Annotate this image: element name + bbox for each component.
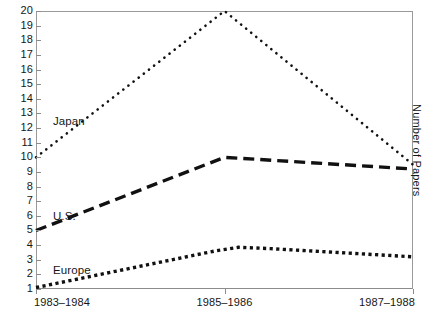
series-line-us [36, 157, 413, 230]
y-tick-mark [36, 274, 41, 275]
y-tick-mark [36, 11, 41, 12]
series-label-japan: Japan [53, 115, 85, 127]
y-tick-mark [36, 245, 41, 246]
series-label-europe: Europe [53, 264, 91, 276]
y-axis-title: Number of Papers [411, 104, 423, 196]
y-tick-mark [36, 289, 41, 290]
y-tick-mark [36, 26, 41, 27]
y-tick-mark [36, 172, 41, 173]
y-tick-mark [36, 99, 41, 100]
y-tick-mark [36, 187, 41, 188]
y-tick-mark [36, 230, 41, 231]
y-tick-mark [36, 143, 41, 144]
y-tick-mark [36, 157, 41, 158]
series-label-us: U.S. [53, 210, 76, 222]
y-tick-mark [36, 128, 41, 129]
y-tick-mark [36, 70, 41, 71]
series-line-europe [36, 247, 413, 287]
series-line-japan [36, 11, 413, 165]
y-tick-mark [36, 201, 41, 202]
y-tick-mark [36, 216, 41, 217]
line-chart: 2019181716151413121110987654321 1983–198… [0, 0, 445, 317]
y-tick-mark [36, 260, 41, 261]
y-tick-mark [36, 40, 41, 41]
y-tick-mark [36, 55, 41, 56]
y-tick-mark [36, 113, 41, 114]
y-tick-mark [36, 84, 41, 85]
